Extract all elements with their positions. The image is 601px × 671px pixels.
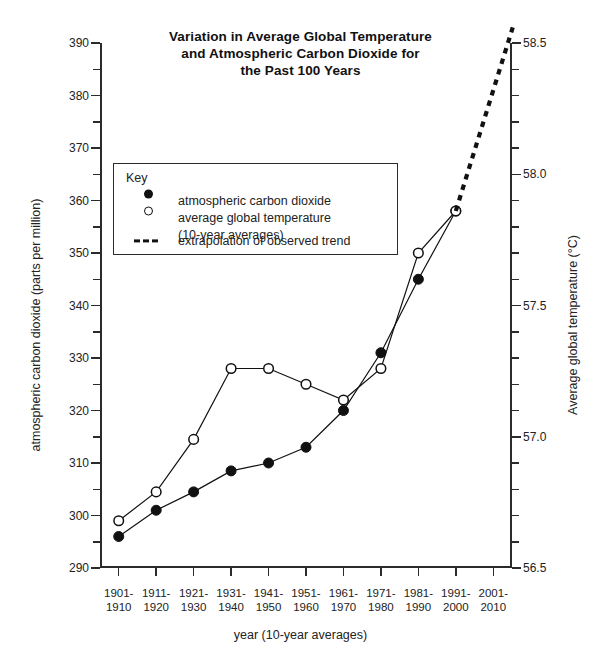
- co2-data-point: [301, 442, 311, 452]
- x-axis-tick-label: 2001-2010: [470, 586, 516, 614]
- co2-data-point: [151, 505, 161, 515]
- y-right-tick: [512, 357, 519, 359]
- co2-data-point: [413, 274, 423, 284]
- legend-label-extrapolation: extrapolation of observed trend: [178, 234, 350, 248]
- x-axis-tick: [380, 568, 382, 576]
- temperature-data-point: [376, 364, 386, 374]
- x-axis-tick: [155, 568, 157, 576]
- co2-data-point: [264, 458, 274, 468]
- y-left-tick: [93, 174, 100, 176]
- y-left-tick: [93, 69, 100, 71]
- y-right-tick: [512, 515, 519, 517]
- y-right-tick: [512, 567, 521, 569]
- temperature-data-point: [414, 248, 424, 258]
- y-right-tick: [512, 541, 519, 543]
- y-left-tick-label: 310: [69, 456, 89, 470]
- y-left-tick-label: 380: [69, 89, 89, 103]
- y-left-tick: [91, 200, 100, 202]
- temperature-data-point: [151, 487, 161, 497]
- open-circle-icon: [144, 207, 153, 216]
- y-left-tick: [91, 462, 100, 464]
- y-right-tick: [512, 174, 521, 176]
- y-axis-right-title: Average global temperature (°C): [566, 165, 580, 485]
- y-right-tick-label: 57.5: [523, 299, 546, 313]
- y-right-tick: [512, 331, 519, 333]
- y-right-tick: [512, 305, 521, 307]
- y-left-tick-label: 300: [69, 509, 89, 523]
- y-right-tick: [512, 436, 521, 438]
- x-axis-tick: [455, 568, 457, 576]
- plot-area: 290300310320330340350360370380390 56.557…: [100, 43, 512, 568]
- temperature-data-point: [114, 516, 124, 526]
- y-left-tick: [91, 95, 100, 97]
- legend-key-box: Key atmospheric carbon dioxide average g…: [113, 163, 398, 255]
- x-axis-tick: [418, 568, 420, 576]
- y-left-tick: [91, 410, 100, 412]
- y-right-tick-label: 58.5: [523, 36, 546, 50]
- y-left-tick-label: 290: [69, 561, 89, 575]
- y-left-tick-label: 320: [69, 404, 89, 418]
- y-right-tick: [512, 384, 519, 386]
- y-right-tick: [512, 462, 519, 464]
- temperature-data-point: [301, 379, 311, 389]
- filled-circle-icon: [144, 190, 153, 199]
- y-left-tick: [91, 357, 100, 359]
- dashed-line-icon: [134, 239, 158, 242]
- y-right-tick: [512, 226, 519, 228]
- y-left-tick: [91, 305, 100, 307]
- y-right-tick: [512, 489, 519, 491]
- y-right-tick: [512, 95, 519, 97]
- y-right-tick-label: 57.0: [523, 430, 546, 444]
- y-left-tick: [93, 121, 100, 123]
- temperature-data-point: [339, 395, 349, 405]
- y-left-tick: [93, 331, 100, 333]
- data-series-layer: [100, 43, 512, 568]
- y-right-tick: [512, 200, 519, 202]
- temperature-line: [119, 211, 456, 521]
- legend-label-temperature: average global temperature: [178, 211, 331, 225]
- co2-data-point: [338, 406, 348, 416]
- y-right-tick: [512, 42, 521, 44]
- extrapolation-dashed-line: [456, 27, 513, 211]
- legend-label-co2: atmospheric carbon dioxide: [178, 194, 331, 208]
- y-left-tick-label: 350: [69, 246, 89, 260]
- y-right-tick: [512, 121, 519, 123]
- y-left-tick: [93, 436, 100, 438]
- y-right-tick: [512, 147, 519, 149]
- y-left-tick-label: 330: [69, 351, 89, 365]
- y-left-tick: [91, 252, 100, 254]
- x-axis-tick: [230, 568, 232, 576]
- y-right-tick: [512, 252, 519, 254]
- y-left-tick-label: 340: [69, 299, 89, 313]
- y-left-tick: [91, 42, 100, 44]
- x-axis-tick: [268, 568, 270, 576]
- temperature-data-point: [264, 364, 274, 374]
- y-left-tick: [91, 147, 100, 149]
- y-right-tick: [512, 279, 519, 281]
- y-left-tick-label: 370: [69, 141, 89, 155]
- y-left-tick-label: 390: [69, 36, 89, 50]
- y-right-tick-label: 58.0: [523, 167, 546, 181]
- y-right-tick: [512, 69, 519, 71]
- co2-data-point: [226, 466, 236, 476]
- y-left-tick-label: 360: [69, 194, 89, 208]
- y-left-tick: [91, 515, 100, 517]
- y-right-tick: [512, 410, 519, 412]
- legend-heading: Key: [126, 171, 148, 185]
- x-axis-tick: [193, 568, 195, 576]
- y-left-tick: [93, 384, 100, 386]
- x-axis-tick: [305, 568, 307, 576]
- co2-data-point: [189, 487, 199, 497]
- x-axis-tick: [343, 568, 345, 576]
- y-left-tick: [93, 489, 100, 491]
- y-left-tick: [93, 279, 100, 281]
- co2-data-point: [114, 532, 124, 542]
- y-right-tick-label: 56.5: [523, 561, 546, 575]
- x-axis-tick: [118, 568, 120, 576]
- x-axis-title: year (10-year averages): [0, 628, 601, 642]
- y-left-tick: [91, 567, 100, 569]
- y-axis-left-title: atmospheric carbon dioxide (parts per mi…: [29, 165, 43, 485]
- x-axis-tick: [493, 568, 495, 576]
- temperature-data-point: [226, 364, 236, 374]
- temperature-data-point: [189, 435, 199, 445]
